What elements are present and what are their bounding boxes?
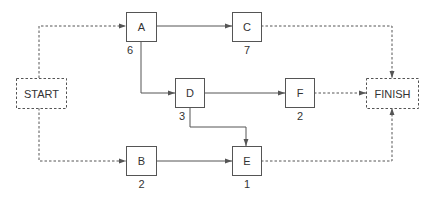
node-e: E1 bbox=[233, 147, 262, 191]
edges-layer bbox=[39, 26, 392, 161]
node-finish: FINISH bbox=[367, 79, 419, 109]
node-start: START bbox=[17, 79, 67, 109]
edge-d-to-e bbox=[190, 107, 246, 146]
node-label: C bbox=[243, 21, 251, 33]
node-label: A bbox=[138, 21, 146, 33]
node-label: B bbox=[138, 155, 145, 167]
edge-start-to-a bbox=[39, 26, 126, 78]
duration-label: 3 bbox=[179, 110, 185, 122]
node-label: F bbox=[297, 87, 304, 99]
duration-label: 1 bbox=[244, 178, 250, 190]
node-label: E bbox=[243, 155, 250, 167]
duration-label: 6 bbox=[127, 44, 133, 56]
node-label: START bbox=[24, 88, 59, 100]
edge-a-to-d bbox=[141, 41, 175, 93]
edge-e-to-finish bbox=[261, 108, 392, 161]
nodes-layer: STARTA6B2C7D3E1F2FINISH bbox=[17, 13, 419, 191]
edge-start-to-b bbox=[39, 108, 126, 161]
node-b: B2 bbox=[127, 147, 157, 191]
duration-label: 2 bbox=[297, 110, 303, 122]
node-c: C7 bbox=[233, 13, 262, 57]
edge-c-to-finish bbox=[261, 26, 392, 78]
duration-label: 7 bbox=[244, 44, 250, 56]
node-label: FINISH bbox=[374, 88, 410, 100]
duration-label: 2 bbox=[138, 178, 144, 190]
node-f: F2 bbox=[286, 79, 315, 123]
node-label: D bbox=[186, 87, 194, 99]
activity-network-diagram: STARTA6B2C7D3E1F2FINISH bbox=[0, 0, 435, 201]
